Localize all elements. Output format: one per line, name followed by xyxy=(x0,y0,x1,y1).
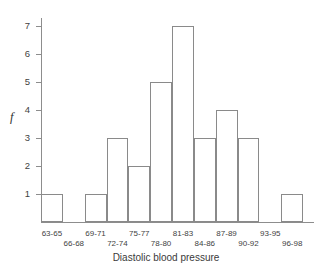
x-axis-tick-label: 66-68 xyxy=(54,239,94,248)
x-axis-tick-label: 69-71 xyxy=(76,229,116,238)
x-axis-tick-label: 90-92 xyxy=(229,239,269,248)
x-axis-tick-label: 96-98 xyxy=(272,239,312,248)
x-axis-tick-label: 93-95 xyxy=(250,229,290,238)
x-axis-tick-label: 72-74 xyxy=(97,239,137,248)
y-axis-tick-label: 2 xyxy=(6,161,30,171)
y-axis-tick-label: 1 xyxy=(6,189,30,199)
y-axis-tick-label: 6 xyxy=(6,49,30,59)
histogram-bar xyxy=(216,110,238,222)
x-axis-tick-label: 63-65 xyxy=(32,229,72,238)
histogram-bar xyxy=(281,194,303,222)
x-axis-tick-label: 87-89 xyxy=(207,229,247,238)
y-axis-tick-label: 4 xyxy=(6,105,30,115)
y-axis-tick-label: 5 xyxy=(6,77,30,87)
x-axis-title: Diastolic blood pressure xyxy=(0,252,332,263)
histogram-bar xyxy=(85,194,107,222)
x-axis-tick-label: 81-83 xyxy=(163,229,203,238)
histogram-bar xyxy=(172,26,194,222)
plot-area xyxy=(41,18,314,222)
x-axis-tick-label: 78-80 xyxy=(141,239,181,248)
histogram-bar xyxy=(194,138,216,222)
histogram-bar xyxy=(150,82,172,222)
x-axis-tick-label: 75-77 xyxy=(119,229,159,238)
histogram-figure: f 1234567 63-6566-6869-7172-7475-7778-80… xyxy=(0,0,332,273)
histogram-bar xyxy=(107,138,129,222)
x-axis-line xyxy=(41,222,314,223)
histogram-bar xyxy=(238,138,260,222)
y-axis-tick-label: 3 xyxy=(6,133,30,143)
histogram-bar xyxy=(41,194,63,222)
x-axis-tick-label: 84-86 xyxy=(185,239,225,248)
histogram-bar xyxy=(128,166,150,222)
y-axis-tick-label: 7 xyxy=(6,21,30,31)
